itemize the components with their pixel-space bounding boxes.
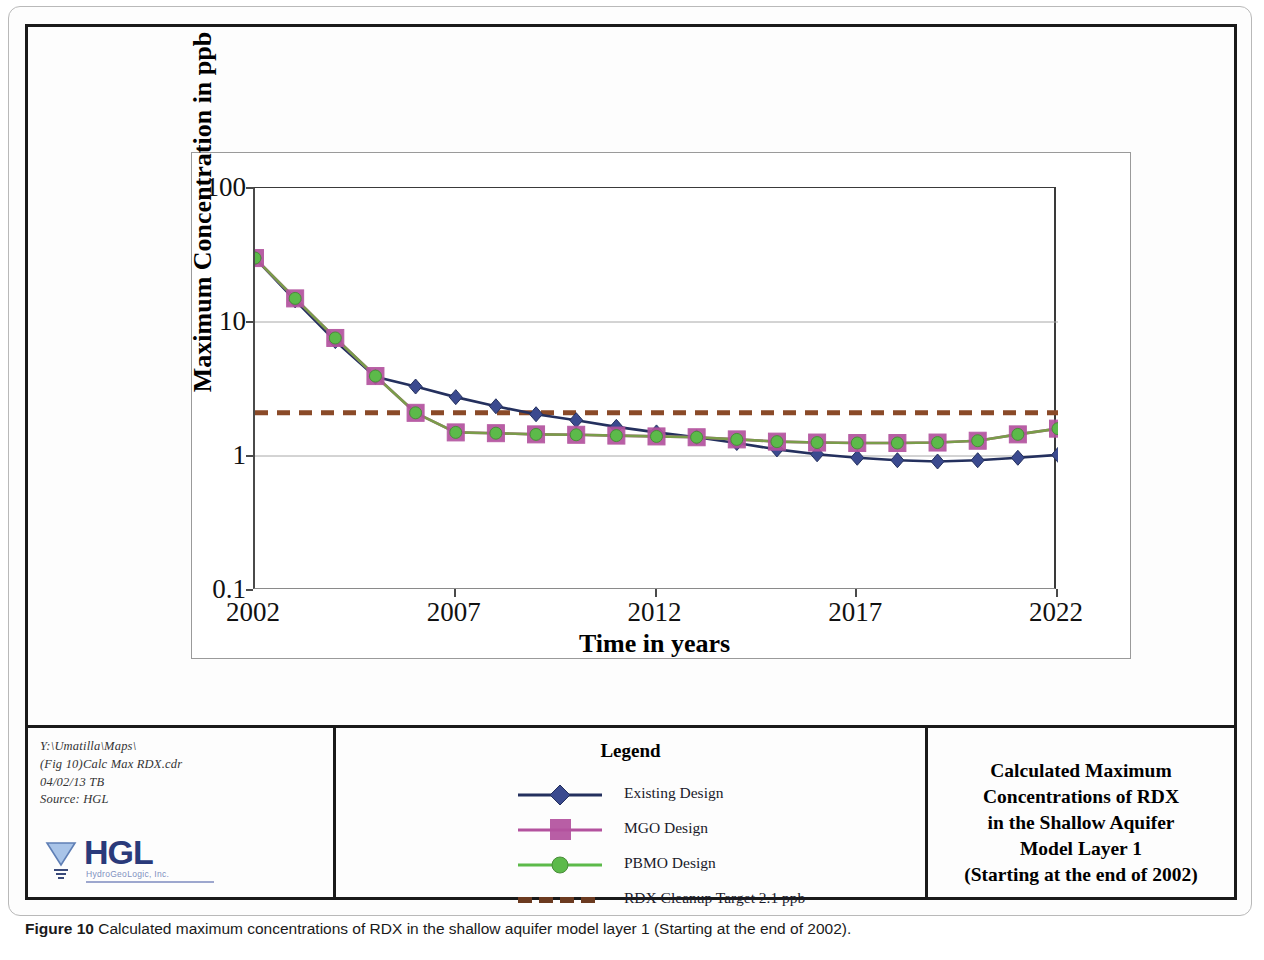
legend-label: RDX Cleanup Target 2.1 ppb [624,889,805,907]
filepath-line-3: 04/02/13 TB [40,774,182,792]
title-block-right-panel: Calculated MaximumConcentrations of RDXi… [928,728,1234,897]
y-tick-100: 100 [206,172,247,203]
x-axis-title: Time in years [253,629,1056,659]
legend-heading: Legend [336,740,925,762]
filepath-line-2: (Fig 10)Calc Max RDX.cdr [40,756,182,774]
y-tick-10: 10 [219,306,246,337]
figure-title-line-1: Calculated Maximum [928,758,1234,784]
x-tickmark [454,589,456,597]
x-tickmark [1056,589,1058,597]
figure-title-line-3: in the Shallow Aquifer [928,810,1234,836]
x-tick-2002: 2002 [226,597,280,628]
legend-panel: Legend Existing DesignMGO DesignPBMO Des… [336,728,928,897]
legend-swatch-circle [514,850,606,880]
legend-swatch-square [514,815,606,845]
hgl-tagline: HydroGeoLogic, Inc. [86,869,169,879]
hgl-logo-rule [86,881,214,883]
caption-label: Figure 10 [25,920,94,937]
figure-title-line-5: (Starting at the end of 2002) [928,862,1234,888]
legend-label: Existing Design [624,784,723,802]
title-block-left-panel: Y:\Umatilla\Maps\ (Fig 10)Calc Max RDX.c… [28,728,336,897]
figure-plate: Maximum Concentration in ppb 1001010.1 2… [25,24,1237,900]
title-block: Y:\Umatilla\Maps\ (Fig 10)Calc Max RDX.c… [28,725,1234,897]
x-tickmark [655,589,657,597]
y-tick-1: 1 [233,440,247,471]
filepath-line-4: Source: HGL [40,791,182,809]
y-tickmark [246,321,253,323]
source-filepath-text: Y:\Umatilla\Maps\ (Fig 10)Calc Max RDX.c… [40,738,182,809]
figure-title-line-4: Model Layer 1 [928,836,1234,862]
figure-caption: Figure 10 Calculated maximum concentrati… [25,920,1240,938]
y-tickmark [246,455,253,457]
x-tick-2017: 2017 [828,597,882,628]
legend-label: PBMO Design [624,854,716,872]
y-tickmark [246,187,253,189]
legend-swatch-dashed-line [514,885,606,915]
legend-label: MGO Design [624,819,708,837]
x-tickmark [855,589,857,597]
plot-area [253,187,1056,589]
x-tick-2012: 2012 [628,597,682,628]
caption-text: Calculated maximum concentrations of RDX… [94,920,851,937]
filepath-line-1: Y:\Umatilla\Maps\ [40,738,182,756]
legend-swatch-diamond [514,780,606,810]
figure-title-text: Calculated MaximumConcentrations of RDXi… [928,758,1234,888]
chart-svg [255,188,1058,590]
x-tick-2007: 2007 [427,597,481,628]
hgl-logo: HGL HydroGeoLogic, Inc. [40,835,220,891]
figure-title-line-2: Concentrations of RDX [928,784,1234,810]
x-tick-2022: 2022 [1029,597,1083,628]
y-tickmark [246,589,253,591]
water-table-triangle-icon [44,839,78,881]
hgl-wordmark: HGL [84,835,153,869]
